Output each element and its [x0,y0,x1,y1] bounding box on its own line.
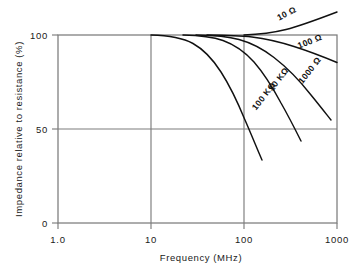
x-axis-ticks-group [58,223,337,229]
x-axis-title: Frequency (MHz) [160,252,242,263]
chart-canvas: 100 50 0 1.0 10 100 1000 Frequency (MHz)… [0,0,358,267]
y-axis-title: Impedance relative to resistance (%) [13,41,24,217]
y-tick-label-0: 0 [42,218,48,229]
x-tick-label-1000: 1000 [325,234,349,245]
curve-1000-ohm [196,35,331,120]
y-tick-label-50: 50 [36,124,48,135]
x-tick-label-100: 100 [235,234,253,245]
x-tick-label-1: 1.0 [50,234,65,245]
y-tick-label-100: 100 [30,30,48,41]
curve-label-1000-ohm: 1000 Ω [296,55,323,85]
impedance-vs-frequency-figure: 100 50 0 1.0 10 100 1000 Frequency (MHz)… [0,0,358,267]
y-axis-ticks-group [52,35,58,223]
curve-label-100-kohm: 100 KΩ [250,80,278,112]
curve-10-kohm [183,35,301,141]
curve-label-10-ohm: 10 Ω [275,4,298,22]
x-tick-label-10: 10 [145,234,157,245]
